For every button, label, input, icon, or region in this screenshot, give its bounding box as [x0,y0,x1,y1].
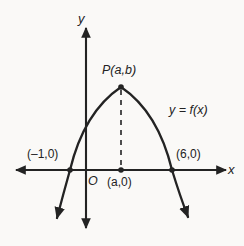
y-axis-label: y [78,12,85,25]
vertex-dot [118,84,124,90]
graph-canvas [0,0,244,246]
x-axis-label: x [228,163,235,176]
left-root-label: (–1,0) [27,148,58,160]
origin-label: O [88,175,98,188]
vertex-foot-label: (a,0) [107,176,132,188]
left-root-dot [67,167,73,173]
vertex-foot-dot [118,167,124,173]
function-label: y = f(x) [169,104,208,117]
vertex-label: P(a,b) [102,64,136,77]
right-root-dot [169,167,175,173]
parabola-figure: y x P(a,b) y = f(x) (–1,0) (6,0) O (a,0) [0,0,244,246]
right-root-label: (6,0) [176,148,201,160]
paper-texture [0,0,244,246]
